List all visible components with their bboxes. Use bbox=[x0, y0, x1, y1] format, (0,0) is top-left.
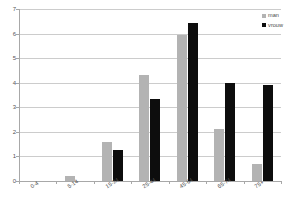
bar-group bbox=[94, 9, 131, 181]
x-tick-mark bbox=[206, 181, 207, 184]
bar-group bbox=[19, 9, 56, 181]
y-tick-label: 6 bbox=[3, 30, 16, 36]
bar-vrouw-45-64 bbox=[188, 23, 198, 181]
x-tick-mark bbox=[131, 181, 132, 184]
y-tick-label: 0 bbox=[3, 178, 16, 184]
plot-area bbox=[19, 9, 281, 181]
y-tick-label: 3 bbox=[3, 104, 16, 110]
y-tick-label: 5 bbox=[3, 55, 16, 61]
y-tick-label: 7 bbox=[3, 6, 16, 12]
y-tick-label: 2 bbox=[3, 128, 16, 134]
legend-item-man[interactable]: man bbox=[262, 13, 283, 19]
bar-man-45-64 bbox=[177, 35, 187, 181]
bar-chart: 01234567 0-45-1415-2425-4445-6465-7475+ … bbox=[0, 0, 287, 205]
legend: manvrouw bbox=[262, 13, 283, 28]
bar-vrouw-25-44 bbox=[150, 99, 160, 181]
x-tick-mark bbox=[19, 181, 20, 184]
bar-man-15-24 bbox=[102, 142, 112, 181]
bar-group bbox=[131, 9, 168, 181]
legend-item-vrouw[interactable]: vrouw bbox=[262, 23, 283, 29]
legend-swatch-icon bbox=[262, 14, 266, 18]
bar-group bbox=[169, 9, 206, 181]
legend-label: vrouw bbox=[268, 23, 283, 29]
y-tick-label: 4 bbox=[3, 79, 16, 85]
x-tick-mark bbox=[56, 181, 57, 184]
legend-swatch-icon bbox=[262, 23, 266, 27]
bar-group bbox=[56, 9, 93, 181]
x-tick-mark bbox=[169, 181, 170, 184]
bar-vrouw-75+ bbox=[263, 85, 273, 181]
x-tick-mark bbox=[94, 181, 95, 184]
bar-vrouw-65-74 bbox=[225, 83, 235, 181]
x-tick-label-0-4: 0-4 bbox=[30, 181, 40, 190]
x-tick-mark bbox=[244, 181, 245, 184]
bar-group bbox=[244, 9, 281, 181]
bar-man-65-74 bbox=[214, 129, 224, 181]
bar-group bbox=[206, 9, 243, 181]
legend-label: man bbox=[268, 13, 279, 19]
bar-man-25-44 bbox=[139, 75, 149, 181]
x-tick-mark bbox=[281, 181, 282, 184]
y-tick-label: 1 bbox=[3, 153, 16, 159]
